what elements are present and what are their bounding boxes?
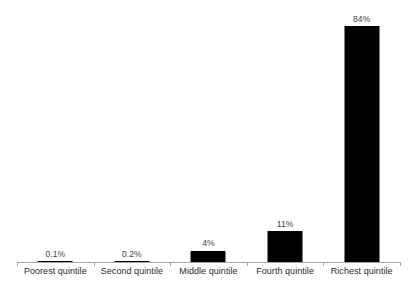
- bar-slot: 84%: [323, 8, 400, 262]
- axis-tick: [247, 262, 248, 266]
- bar-chart: 0.1% 0.2% 4% 11% 84%: [0, 0, 416, 300]
- bar-slot: 11%: [247, 8, 324, 262]
- bar-slot: 0.1%: [17, 8, 94, 262]
- bar-slot: 0.2%: [94, 8, 171, 262]
- x-axis-category-label: Fourth quintile: [247, 267, 324, 277]
- axis-tick: [94, 262, 95, 266]
- x-axis-category-label: Poorest quintile: [17, 267, 94, 277]
- bar-group[interactable]: 0.1%: [38, 8, 73, 262]
- plot-area: 0.1% 0.2% 4% 11% 84%: [17, 8, 400, 262]
- x-axis-category-label: Richest quintile: [323, 267, 400, 277]
- bar-value-label: 84%: [353, 15, 370, 24]
- bar-group[interactable]: 84%: [344, 8, 379, 262]
- bar-rect[interactable]: [344, 26, 379, 262]
- bar-group[interactable]: 4%: [191, 8, 226, 262]
- axis-tick: [323, 262, 324, 266]
- bar-value-label: 11%: [277, 220, 294, 229]
- axis-tick: [170, 262, 171, 266]
- bar-value-label: 4%: [202, 239, 215, 248]
- bar-value-label: 0.2%: [122, 250, 142, 259]
- bar-group[interactable]: 11%: [268, 8, 303, 262]
- bar-rect[interactable]: [191, 251, 226, 262]
- bar-rect[interactable]: [268, 231, 303, 262]
- x-axis-category-label: Second quintile: [94, 267, 171, 277]
- axis-tick: [17, 262, 18, 266]
- axis-tick: [400, 262, 401, 266]
- bar-group[interactable]: 0.2%: [114, 8, 149, 262]
- bar-value-label: 0.1%: [45, 250, 65, 259]
- x-axis-line: [17, 262, 400, 263]
- x-axis-category-label: Middle quintile: [170, 267, 247, 277]
- bar-slot: 4%: [170, 8, 247, 262]
